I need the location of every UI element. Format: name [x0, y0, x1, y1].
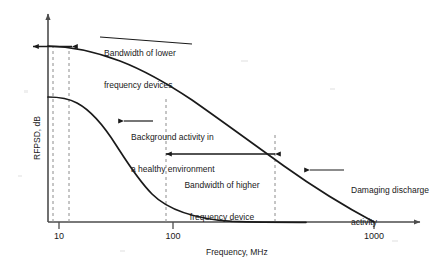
- x-tick-label-10: 10: [49, 231, 69, 242]
- rf-spectrum-chart: RFPSD, dB Frequency, MHz 10 100 1000 Ban…: [0, 0, 440, 272]
- annotation-damaging-discharge: Damaging discharge activity: [351, 164, 429, 248]
- annotation-lower-band-line2: frequency devices: [104, 80, 176, 91]
- annotation-damaging-discharge-line2: activity: [351, 217, 429, 228]
- annotation-higher-band-line1: Bandwidth of higher: [177, 180, 267, 191]
- x-axis-label: Frequency, MHz: [206, 247, 268, 258]
- scan-artifact: [241, 60, 248, 62]
- annotation-higher-band-line2: frequency device: [177, 212, 267, 223]
- annotation-higher-band: Bandwidth of higher frequency device: [177, 159, 267, 243]
- y-axis-label: RFPSD, dB: [32, 116, 42, 160]
- scan-artifact: [24, 90, 28, 93]
- annotation-background-activity-line1: Background activity in: [131, 132, 215, 143]
- scan-artifact: [330, 88, 335, 90]
- annotation-lower-band: Bandwidth of lower frequency devices: [104, 27, 176, 111]
- annotation-damaging-discharge-line1: Damaging discharge: [351, 185, 429, 196]
- scan-artifact: [18, 175, 22, 177]
- annotation-lower-band-line1: Bandwidth of lower: [104, 48, 176, 59]
- scan-artifact: [120, 250, 125, 252]
